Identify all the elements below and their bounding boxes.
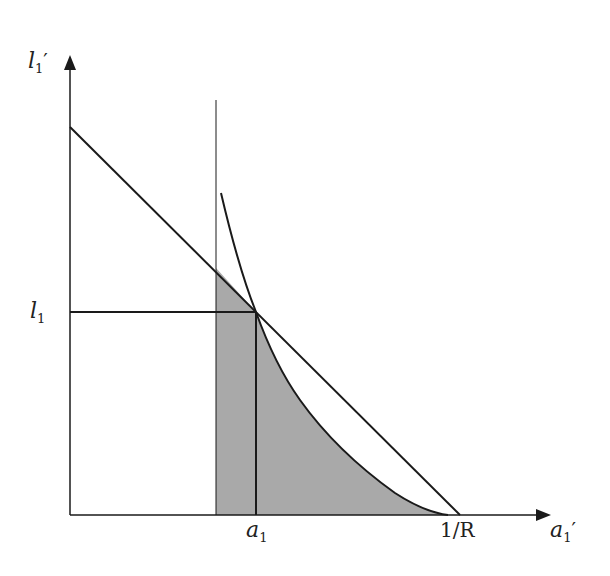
shaded-region <box>216 268 448 515</box>
y-tick-l1: l1 <box>30 298 45 326</box>
x-tick-1-over-R: 1/R <box>440 518 475 542</box>
diagram-canvas: l1′ l1 a1 1/R a1′ <box>0 0 610 576</box>
x-axis-label: a1′ <box>550 517 576 545</box>
x-tick-a1: a1 <box>246 517 267 545</box>
y-axis-label: l1′ <box>28 48 48 76</box>
